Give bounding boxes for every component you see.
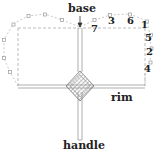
base-stem bbox=[78, 28, 82, 72]
number-label-7: 7 bbox=[91, 24, 98, 34]
handle-label: handle bbox=[63, 140, 105, 151]
number-label-5: 5 bbox=[145, 33, 152, 43]
number-label-3: 3 bbox=[108, 16, 115, 26]
woven-diamond bbox=[66, 71, 94, 101]
number-label-4: 4 bbox=[144, 64, 151, 74]
rim-label: rim bbox=[111, 92, 133, 103]
number-label-1: 1 bbox=[141, 20, 148, 30]
base-label: base bbox=[68, 3, 96, 14]
number-label-6: 6 bbox=[127, 16, 134, 26]
base-arrow bbox=[78, 16, 82, 27]
basket-diagram bbox=[0, 0, 158, 151]
number-label-2: 2 bbox=[146, 47, 153, 57]
